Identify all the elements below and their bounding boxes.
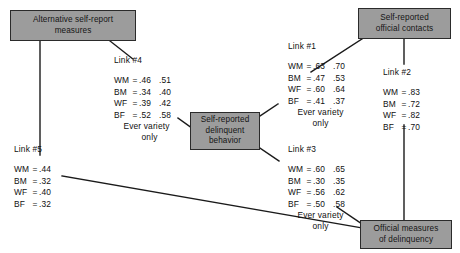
link3-title: Link #3 [288,144,353,155]
link4-row0-group: WM [114,75,131,86]
link-group-5: Link #5 WM = .44 BM = .32 WF = .40 BF = … [14,144,59,210]
link5-row0-group: WM [14,164,31,175]
link1-row1-group: BM [288,73,305,84]
link4-row0-v1: .46 [139,75,159,86]
node-alternative-self-report-measures[interactable]: Alternative self-report measures [10,10,136,41]
link1-title: Link #1 [288,41,353,52]
link2-row1-group: BM [383,99,400,110]
link1-row2-group: WF [288,84,305,95]
table-row: WF = .56 .62 [288,187,353,198]
link2-row3-eq: = [400,122,408,133]
link2-row3-v1: .70 [408,122,428,133]
link-group-3: Link #3 WM = .60 .65 BM = .30 .35 WF = .… [288,144,353,233]
node-delinquent-behavior-line3: behavior [199,136,252,147]
link5-row3-v1: .32 [39,199,59,210]
link5-row1-group: BM [14,176,31,187]
link4-row1-v2: .40 [159,87,179,98]
link2-row1-v1: .72 [408,99,428,110]
node-official-contacts-line2: official contacts [374,24,436,35]
table-row: WM = .46 .51 [114,75,179,86]
node-official-measures-of-delinquency[interactable]: Official measures of delinquency [360,220,452,249]
node-delinquent-behavior-line1: Self-reported [199,115,252,126]
link3-row1-v1: .30 [313,176,333,187]
table-row: BF = .41 .37 [288,96,353,107]
link2-coefficient-table: WM = .83 BM = .72 WF = .82 BF = .70 [383,87,428,133]
link5-row2-eq: = [31,187,39,198]
link2-title: Link #2 [383,67,428,78]
link1-row1-v1: .47 [313,73,333,84]
table-row: BM = .34 .40 [114,87,179,98]
link2-row0-v1: .83 [408,87,428,98]
link3-row0-group: WM [288,164,305,175]
link1-row2-v1: .60 [313,84,333,95]
table-row: WM = .44 [14,164,59,175]
table-row: BF = .52 .58 [114,110,179,121]
link3-row0-v2: .65 [333,164,353,175]
link2-row2-eq: = [400,110,408,121]
link3-note-line1: Ever variety [288,210,353,221]
link3-row2-v1: .56 [313,187,333,198]
node-self-reported-delinquent-behavior[interactable]: Self-reported delinquent behavior [190,112,260,150]
link5-row2-v1: .40 [39,187,59,198]
link3-row3-eq: = [305,199,313,210]
link4-note-line1: Ever variety [114,121,179,132]
link4-row1-v1: .34 [139,87,159,98]
link1-note-line1: Ever variety [288,107,353,118]
link3-row3-v1: .50 [313,199,333,210]
table-row: BF = .32 [14,199,59,210]
link5-title: Link #5 [14,144,59,155]
link1-row3-group: BF [288,96,305,107]
link4-coefficient-table: WM = .46 .51 BM = .34 .40 WF = .39 .42 B… [114,75,179,121]
link1-row0-eq: = [305,61,313,72]
table-row: BF = .50 .58 [288,199,353,210]
link4-row3-v1: .52 [139,110,159,121]
link4-row2-eq: = [131,98,139,109]
link1-row2-eq: = [305,84,313,95]
link1-row0-v1: .63 [313,61,333,72]
table-row: BF = .70 [383,122,428,133]
node-official-contacts-line1: Self-reported [374,13,436,24]
table-row: BM = .72 [383,99,428,110]
link3-note-line2: only [288,221,353,232]
link2-row1-eq: = [400,99,408,110]
link3-row0-v1: .60 [313,164,333,175]
link4-note-line2: only [114,132,179,143]
link5-row0-eq: = [31,164,39,175]
connector-link1-to-delinquent-behavior [257,104,278,118]
link1-row2-v2: .64 [333,84,353,95]
link5-row0-v1: .44 [39,164,59,175]
link1-note-line2: only [288,118,353,129]
table-row: BM = .32 [14,176,59,187]
link3-row1-v2: .35 [333,176,353,187]
link4-row2-group: WF [114,98,131,109]
link2-row0-eq: = [400,87,408,98]
node-self-reported-official-contacts[interactable]: Self-reported official contacts [358,8,451,39]
link1-row3-v2: .37 [333,96,353,107]
link3-row3-group: BF [288,199,305,210]
link2-row3-group: BF [383,122,400,133]
link3-row2-group: WF [288,187,305,198]
link3-coefficient-table: WM = .60 .65 BM = .30 .35 WF = .56 .62 B… [288,164,353,210]
link3-row1-eq: = [305,176,313,187]
link4-row1-eq: = [131,87,139,98]
link5-row3-group: BF [14,199,31,210]
link5-row1-v1: .32 [39,176,59,187]
diagram-canvas: Alternative self-report measures Self-re… [0,0,460,253]
table-row: WF = .40 [14,187,59,198]
node-alt-self-report-line1: Alternative self-report [31,15,115,26]
link2-row2-v1: .82 [408,110,428,121]
table-row: WF = .39 .42 [114,98,179,109]
node-official-measures-line2: of delinquency [372,235,441,246]
link3-row1-group: BM [288,176,305,187]
link2-row0-group: WM [383,87,400,98]
link4-row0-eq: = [131,75,139,86]
link1-row0-group: WM [288,61,305,72]
table-row: WF = .82 [383,110,428,121]
link1-row0-v2: .70 [333,61,353,72]
link3-row3-v2: .58 [333,199,353,210]
link4-row1-group: BM [114,87,131,98]
link5-row3-eq: = [31,199,39,210]
node-alt-self-report-line2: measures [31,26,115,37]
link-group-2: Link #2 WM = .83 BM = .72 WF = .82 BF = … [383,67,428,133]
link3-row0-eq: = [305,164,313,175]
